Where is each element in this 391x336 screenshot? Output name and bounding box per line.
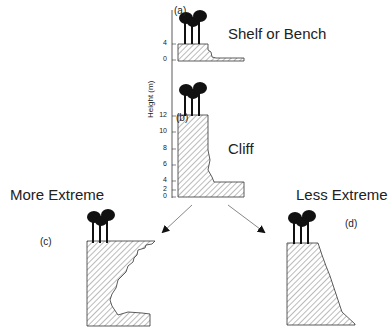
title-less-extreme: Less Extreme — [296, 186, 388, 203]
title-more-extreme: More Extreme — [10, 186, 104, 203]
tick-b-0: 0 — [153, 192, 167, 199]
title-shelf: Shelf or Bench — [228, 25, 326, 42]
tick-b-4: 4 — [153, 176, 167, 183]
more-extreme-profile — [87, 209, 155, 326]
arrow-to-more-extreme — [163, 205, 192, 232]
title-cliff: Cliff — [228, 140, 254, 157]
tick-b-6: 6 — [153, 160, 167, 167]
tick-b-12: 12 — [153, 111, 167, 118]
panel-label-a: (a) — [174, 5, 186, 16]
panel-label-c: (c) — [40, 236, 52, 247]
arrow-to-less-extreme — [228, 205, 264, 232]
panel-label-b: (b) — [176, 112, 188, 123]
panel-label-d: (d) — [345, 218, 357, 229]
tick-b-2: 2 — [153, 185, 167, 192]
tick-a-4: 4 — [153, 39, 167, 46]
tick-b-10: 10 — [153, 127, 167, 134]
diagram-canvas — [0, 0, 391, 336]
tick-a-0: 0 — [153, 55, 167, 62]
tick-b-8: 8 — [153, 144, 167, 151]
